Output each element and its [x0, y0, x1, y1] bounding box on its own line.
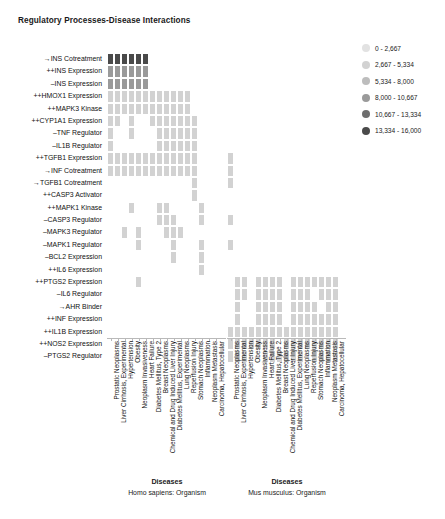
column-label[interactable]: Neoplasm Invasiveness [141, 341, 148, 409]
heatmap-cell[interactable] [114, 165, 121, 177]
heatmap-cell[interactable] [156, 103, 163, 115]
heatmap-cell[interactable] [121, 165, 128, 177]
heatmap-cell[interactable] [227, 214, 234, 226]
heatmap-cell[interactable] [325, 288, 332, 300]
heatmap-cell[interactable] [332, 288, 339, 300]
row-label[interactable]: ++IL1B Expression [0, 326, 105, 338]
heatmap-cell[interactable] [128, 53, 135, 65]
heatmap-cell[interactable] [227, 152, 234, 164]
heatmap-cell[interactable] [121, 103, 128, 115]
heatmap-cell[interactable] [128, 127, 135, 139]
heatmap-cell[interactable] [191, 165, 198, 177]
heatmap-cell[interactable] [318, 288, 325, 300]
heatmap-cell[interactable] [332, 301, 339, 313]
heatmap-cell[interactable] [262, 326, 269, 338]
heatmap-cell[interactable] [149, 103, 156, 115]
heatmap-cell[interactable] [135, 239, 142, 251]
heatmap-cell[interactable] [107, 90, 114, 102]
heatmap-cell[interactable] [128, 103, 135, 115]
heatmap-cell[interactable] [107, 127, 114, 139]
row-label[interactable]: ++PTGS2 Expression [0, 276, 105, 288]
heatmap-cell[interactable] [290, 301, 297, 313]
heatmap-cell[interactable] [325, 313, 332, 325]
column-label[interactable]: Neoplasm Metastasis [331, 341, 338, 402]
heatmap-cell[interactable] [142, 165, 149, 177]
column-label[interactable]: Neoplasm Invasiveness [261, 341, 268, 409]
heatmap-cell[interactable] [198, 214, 205, 226]
column-label[interactable]: Obesity [134, 341, 141, 363]
heatmap-cell[interactable] [290, 313, 297, 325]
heatmap-cell[interactable] [297, 326, 304, 338]
heatmap-cell[interactable] [311, 301, 318, 313]
row-label[interactable]: –IL1B Regulator [0, 140, 105, 152]
heatmap-cell[interactable] [177, 127, 184, 139]
row-label[interactable]: ++IL6 Expression [0, 264, 105, 276]
heatmap-cell[interactable] [234, 288, 241, 300]
heatmap-cell[interactable] [311, 326, 318, 338]
legend-item[interactable]: 5,334 - 8,000 [362, 73, 444, 90]
column-label[interactable]: Inflammation [204, 341, 211, 378]
heatmap-cell[interactable] [255, 288, 262, 300]
column-label[interactable]: Reperfusion Injury [310, 341, 317, 393]
heatmap-cell[interactable] [241, 326, 248, 338]
heatmap-cell[interactable] [163, 127, 170, 139]
heatmap-cell[interactable] [135, 103, 142, 115]
heatmap-cell[interactable] [163, 115, 170, 127]
heatmap-cell[interactable] [325, 301, 332, 313]
row-label[interactable]: →INS Cotreatment [0, 53, 105, 65]
heatmap-cell[interactable] [135, 152, 142, 164]
heatmap-cell[interactable] [234, 326, 241, 338]
heatmap-cell[interactable] [128, 165, 135, 177]
heatmap-cell[interactable] [311, 276, 318, 288]
heatmap-cell[interactable] [107, 53, 114, 65]
heatmap-cell[interactable] [121, 53, 128, 65]
heatmap-cell[interactable] [114, 152, 121, 164]
heatmap-cell[interactable] [121, 65, 128, 77]
column-label[interactable]: Breast Neoplasms [282, 341, 289, 393]
heatmap-cell[interactable] [184, 103, 191, 115]
heatmap-cell[interactable] [107, 152, 114, 164]
row-label[interactable]: ++CASP3 Activator [0, 189, 105, 201]
heatmap-cell[interactable] [156, 115, 163, 127]
heatmap-cell[interactable] [255, 301, 262, 313]
heatmap-cell[interactable] [142, 103, 149, 115]
heatmap-cell[interactable] [184, 165, 191, 177]
heatmap-cell[interactable] [234, 313, 241, 325]
heatmap-cell[interactable] [128, 202, 135, 214]
heatmap-cell[interactable] [227, 239, 234, 251]
heatmap-cell[interactable] [304, 288, 311, 300]
heatmap-cell[interactable] [156, 127, 163, 139]
heatmap-cell[interactable] [135, 53, 142, 65]
heatmap-cell[interactable] [255, 276, 262, 288]
heatmap-panel-mus-musculus[interactable] [227, 53, 339, 363]
column-label[interactable]: Hypertension [247, 341, 254, 379]
heatmap-cell[interactable] [297, 288, 304, 300]
heatmap-cell[interactable] [304, 301, 311, 313]
row-label[interactable]: –PTGS2 Regulator [0, 350, 105, 362]
heatmap-cell[interactable] [170, 127, 177, 139]
heatmap-cell[interactable] [142, 53, 149, 65]
heatmap-cell[interactable] [163, 103, 170, 115]
heatmap-cell[interactable] [262, 313, 269, 325]
column-label[interactable]: Prostatic Neoplasms [233, 341, 240, 400]
heatmap-cell[interactable] [227, 326, 234, 338]
row-label[interactable]: –MAPK1 Regulator [0, 239, 105, 251]
heatmap-cell[interactable] [318, 276, 325, 288]
heatmap-cell[interactable] [149, 165, 156, 177]
heatmap-cell[interactable] [128, 78, 135, 90]
heatmap-cell[interactable] [170, 251, 177, 263]
heatmap-cell[interactable] [297, 313, 304, 325]
heatmap-cell[interactable] [114, 103, 121, 115]
heatmap-cell[interactable] [135, 226, 142, 238]
heatmap-cell[interactable] [262, 288, 269, 300]
column-label[interactable]: Heart Failure [268, 341, 275, 378]
heatmap-cell[interactable] [135, 78, 142, 90]
heatmap-cell[interactable] [107, 65, 114, 77]
column-label[interactable]: Chemical and Drug Induced Liver Injury [169, 341, 176, 453]
heatmap-cell[interactable] [163, 214, 170, 226]
heatmap-cell[interactable] [311, 313, 318, 325]
heatmap-cell[interactable] [149, 90, 156, 102]
heatmap-cell[interactable] [177, 103, 184, 115]
heatmap-cell[interactable] [149, 115, 156, 127]
heatmap-cell[interactable] [128, 90, 135, 102]
